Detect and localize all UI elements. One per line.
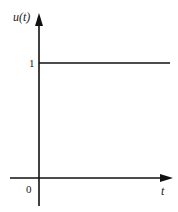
y-axis-label: u(t) <box>13 10 30 24</box>
x-axis-label: t <box>161 184 165 198</box>
unit-step-chart: u(t) 1 0 t <box>0 0 178 212</box>
y-axis-arrow-icon <box>35 13 43 26</box>
y-tick-label-1: 1 <box>29 57 35 69</box>
origin-label: 0 <box>26 183 32 195</box>
x-axis-arrow-icon <box>160 174 173 182</box>
